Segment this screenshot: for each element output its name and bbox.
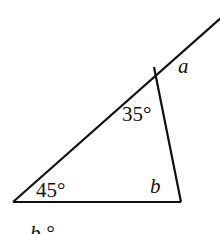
label-angle-45: 45° [36, 180, 65, 201]
triangle-lines [0, 0, 220, 234]
label-angle-35: 35° [122, 104, 151, 125]
label-exterior-angle-a: a [178, 56, 189, 77]
label-angle-b: b [150, 176, 161, 197]
caption-partial: b ° [30, 223, 54, 234]
extended-side [13, 17, 220, 202]
triangle-diagram: a 35° 45° b b ° [0, 0, 220, 234]
